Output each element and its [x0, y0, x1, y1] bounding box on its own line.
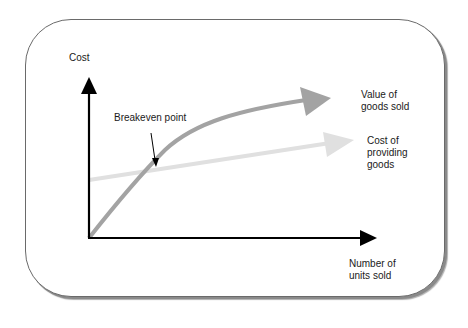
y-axis-label: Cost: [69, 52, 90, 64]
value-of-goods-sold-label: Value of goods sold: [361, 89, 409, 113]
cost-of-providing-goods-line: [89, 132, 354, 180]
y-axis-arrow-icon: [81, 77, 97, 94]
x-axis-label: Number of units sold: [349, 258, 396, 282]
y-axis: [81, 77, 97, 238]
x-axis: [88, 230, 377, 246]
breakeven-point-label: Breakeven point: [114, 112, 186, 124]
x-axis-arrow-icon: [360, 230, 377, 246]
cost-of-providing-goods-label: Cost of providing goods: [367, 135, 408, 171]
